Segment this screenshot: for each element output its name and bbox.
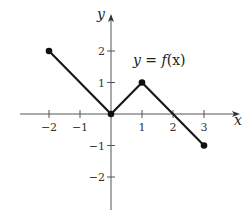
y-tick-label: 1 <box>98 77 105 90</box>
function-label: y = f(x) <box>132 52 186 68</box>
y-tick-label: 2 <box>98 45 105 58</box>
data-point-marker <box>139 79 146 86</box>
data-point-marker <box>201 142 208 149</box>
data-point-marker <box>46 48 53 55</box>
x-axis-label: x <box>234 112 242 128</box>
function-label-eq: = <box>141 52 162 68</box>
axes <box>20 14 240 210</box>
x-tick-label: −1 <box>72 121 88 134</box>
x-tick-label: 1 <box>139 121 146 134</box>
y-tick-label: −1 <box>89 140 105 153</box>
y-tick-label: −2 <box>89 171 105 184</box>
y-axis-label: y <box>96 6 106 22</box>
function-graph: −2−1123−2−112 x y y = f(x) <box>0 0 250 221</box>
x-tick-label: 2 <box>170 121 177 134</box>
data-point-marker <box>108 111 115 118</box>
x-tick-label: 3 <box>201 121 208 134</box>
x-tick-label: −2 <box>41 121 57 134</box>
